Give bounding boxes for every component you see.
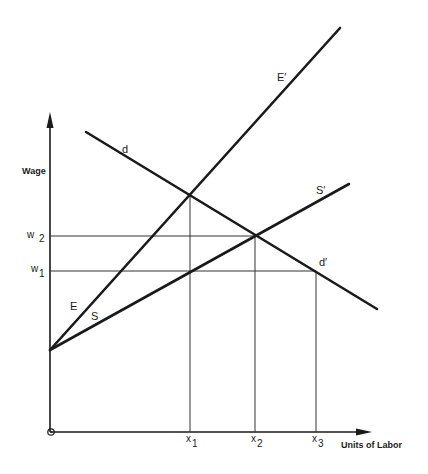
axes <box>47 112 373 436</box>
svg-text:2: 2 <box>39 233 45 244</box>
svg-text:1: 1 <box>39 268 45 279</box>
x-axis-arrow-icon <box>356 429 372 436</box>
curve-label-E: E <box>70 300 77 312</box>
labor-label-x3: x 3 <box>312 433 324 449</box>
curve-label-S: S <box>91 310 98 322</box>
labor-label-x2: x 2 <box>251 433 263 449</box>
guide-lines <box>50 195 316 432</box>
wage-label-w1: w 1 <box>30 263 45 279</box>
wage-label-w2: w 2 <box>26 229 45 244</box>
curve-E <box>50 28 340 350</box>
curve-label-S-prime: S′ <box>316 184 325 196</box>
y-axis-arrow-icon <box>47 112 54 128</box>
curve-d <box>86 132 377 309</box>
labor-label-x1: x 1 <box>186 433 198 449</box>
svg-text:2: 2 <box>257 438 263 449</box>
curve-S <box>50 184 349 350</box>
svg-text:x: x <box>312 433 317 444</box>
curve-label-E-prime: E′ <box>277 71 286 83</box>
svg-text:w: w <box>30 263 39 274</box>
x-axis-label: Units of Labor <box>341 440 402 450</box>
svg-text:x: x <box>186 433 191 444</box>
svg-text:3: 3 <box>318 438 324 449</box>
labor-market-diagram: Wage Units of Labor w 2 w 1 x 1 x 2 x 3 … <box>0 0 428 474</box>
svg-text:w: w <box>26 229 35 240</box>
curve-label-d: d <box>122 143 128 155</box>
svg-text:x: x <box>251 433 256 444</box>
svg-text:1: 1 <box>192 438 198 449</box>
curves <box>50 28 377 350</box>
y-axis-label: Wage <box>22 166 46 176</box>
curve-label-d-prime: d′ <box>319 256 327 268</box>
